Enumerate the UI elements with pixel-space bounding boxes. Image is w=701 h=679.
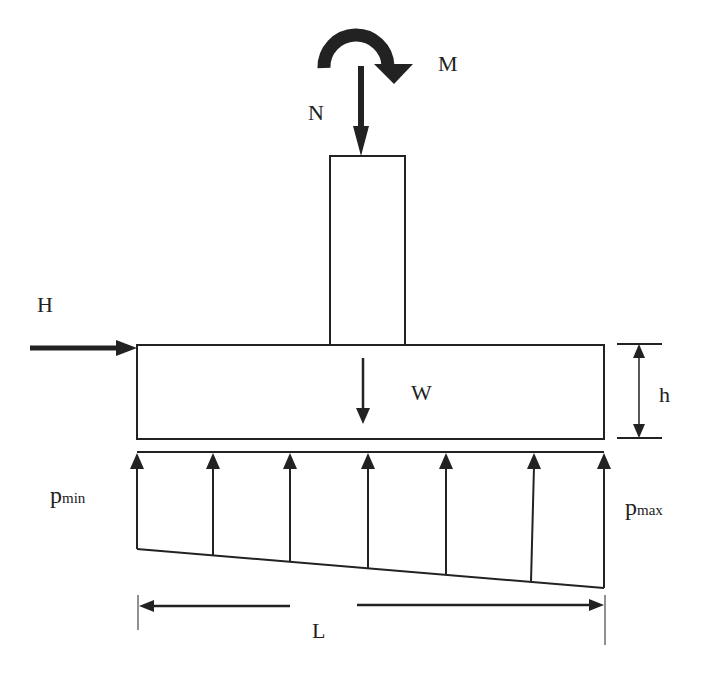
height-label: h (659, 382, 670, 407)
moment-label: M (438, 51, 458, 76)
footing (137, 345, 604, 439)
soil-pressure-distribution (130, 453, 611, 588)
axial-load-arrow-icon (353, 66, 369, 156)
length-dimension (138, 595, 605, 645)
axial-load-label: N (308, 100, 324, 125)
p-max-label: pmax (625, 494, 663, 520)
pressure-arrow-icon (206, 453, 220, 555)
p-min-label: pmin (50, 482, 86, 508)
horizontal-load-label: H (37, 292, 53, 317)
p-min-subscript: min (62, 490, 86, 506)
pressure-arrow-icon (439, 453, 453, 575)
column (330, 156, 405, 345)
pressure-arrow-icon (283, 453, 297, 562)
pressure-arrow-icon (597, 453, 611, 588)
pressure-arrow-icon (527, 453, 541, 582)
horizontal-load-arrow-icon (30, 340, 137, 356)
p-max-base: p (625, 494, 637, 520)
pressure-arrow-icon (361, 453, 375, 568)
self-weight-label: W (411, 380, 432, 405)
p-min-base: p (50, 482, 62, 508)
length-label: L (312, 618, 325, 643)
p-max-subscript: max (637, 502, 663, 518)
footing-diagram: M N H W h L pmin pmax (0, 0, 701, 679)
moment-arrow-icon (324, 35, 413, 84)
pressure-arrow-icon (130, 453, 144, 549)
height-dimension (617, 344, 662, 438)
